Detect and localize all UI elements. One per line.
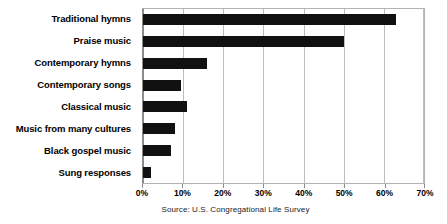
category-axis: Traditional hymnsPraise musicContemporar… <box>0 8 136 184</box>
bar-row <box>143 96 424 118</box>
category-label-cell: Contemporary songs <box>0 74 136 96</box>
x-tick-label: 40% <box>295 189 312 198</box>
category-label-cell: Music from many cultures <box>0 118 136 140</box>
category-label-cell: Classical music <box>0 96 136 118</box>
category-label: Contemporary hymns <box>35 58 131 68</box>
bar <box>143 167 151 178</box>
category-label-cell: Black gospel music <box>0 140 136 162</box>
x-tick-label: 20% <box>214 189 231 198</box>
source-note: Source: U.S. Congregational Life Survey <box>0 205 447 214</box>
category-label: Traditional hymns <box>51 14 131 24</box>
bar <box>143 36 344 47</box>
x-tick-label: 30% <box>255 189 272 198</box>
bar-row <box>143 118 424 140</box>
category-label: Praise music <box>74 36 131 46</box>
horizontal-bar-chart: Traditional hymnsPraise musicContemporar… <box>0 0 447 224</box>
bar <box>143 145 171 156</box>
category-label: Classical music <box>61 102 131 112</box>
category-label-cell: Contemporary hymns <box>0 52 136 74</box>
x-tick-label: 70% <box>416 189 433 198</box>
bar-row <box>143 140 424 162</box>
category-label: Contemporary songs <box>37 80 131 90</box>
category-label-cell: Sung responses <box>0 162 136 184</box>
x-tick-label: 0% <box>136 189 148 198</box>
x-axis: 0%10%20%30%40%50%60%70% <box>142 184 425 204</box>
category-label-cell: Praise music <box>0 30 136 52</box>
category-label: Music from many cultures <box>16 124 131 134</box>
bar <box>143 80 181 91</box>
bar-row <box>143 31 424 53</box>
plot-area <box>142 8 425 184</box>
x-tick-label: 10% <box>174 189 191 198</box>
source-note-text: Source: U.S. Congregational Life Survey <box>138 205 310 214</box>
x-tick-label: 60% <box>376 189 393 198</box>
category-label: Black gospel music <box>44 146 131 156</box>
bar-row <box>143 74 424 96</box>
x-tick-label: 50% <box>336 189 353 198</box>
bar <box>143 123 175 134</box>
bar-row <box>143 9 424 31</box>
bar <box>143 14 396 25</box>
category-label-cell: Traditional hymns <box>0 8 136 30</box>
bar <box>143 101 187 112</box>
bar <box>143 58 207 69</box>
bar-row <box>143 161 424 183</box>
bar-row <box>143 53 424 75</box>
bars-layer <box>143 9 424 183</box>
category-label: Sung responses <box>58 168 131 178</box>
